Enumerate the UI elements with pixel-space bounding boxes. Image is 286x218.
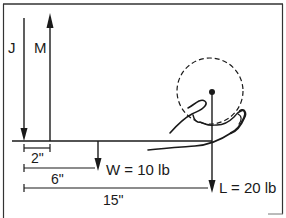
hand-sketch [148, 100, 245, 150]
dimension-2in-label: 2" [31, 150, 44, 166]
dimension-15in-label: 15" [103, 192, 124, 208]
muscle-force-label: M [34, 39, 47, 56]
joint-force-label: J [8, 39, 16, 56]
load-force-label: L = 20 lb [219, 179, 276, 196]
muscle-force-arrow [47, 13, 54, 141]
weight-force-arrow [95, 141, 102, 171]
joint-force-arrow [21, 18, 28, 141]
dimension-6in-label: 6" [51, 171, 64, 187]
weight-force-label: W = 10 lb [106, 161, 170, 178]
lever-diagram: J M 2" W = 10 lb 6" 15" [0, 0, 286, 218]
